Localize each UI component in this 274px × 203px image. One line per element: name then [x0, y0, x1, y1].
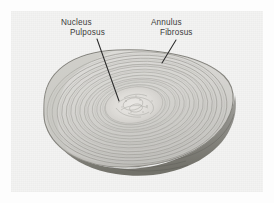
label-nucleus-pulposus-line2: Pulposus [61, 28, 105, 38]
label-nucleus-pulposus: Nucleus Pulposus [61, 18, 105, 38]
figure-container: Nucleus Pulposus Annulus Fibrosus [0, 0, 274, 203]
label-annulus-fibrosus-line1: Annulus [151, 18, 182, 27]
specimen-illustration [0, 0, 274, 203]
label-annulus-fibrosus: Annulus Fibrosus [151, 18, 193, 38]
label-annulus-fibrosus-line2: Fibrosus [151, 28, 193, 38]
specimen-stage: Nucleus Pulposus Annulus Fibrosus [0, 0, 274, 203]
label-nucleus-pulposus-line1: Nucleus [61, 18, 92, 27]
